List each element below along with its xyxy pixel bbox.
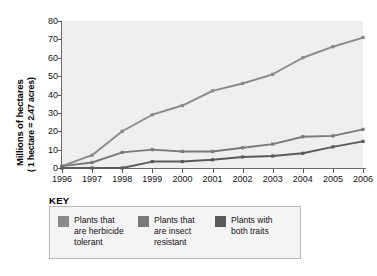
y-axis-tick-mark [58,131,62,132]
legend-item-label: Plants with both traits [231,215,273,237]
x-axis-tick-mark [243,169,244,173]
plot-background [62,21,363,169]
x-axis-tick-label: 1996 [52,174,72,184]
y-axis-tick-label: 60 [48,53,58,63]
legend-item-insect-resistant[interactable]: Plants that are insect resistant [138,215,206,248]
legend-swatch-icon [138,216,149,227]
x-axis-tick-mark [152,169,153,173]
x-axis-tick-mark [122,169,123,173]
y-axis-ticks: 01020304050607080 [36,15,62,177]
line-chart-figure: Millions of hectares ( 1 hectare = 2.47 … [0,0,377,276]
x-axis-tick-label: 2005 [323,174,343,184]
x-axis-tick-label: 2003 [263,174,283,184]
y-axis-tick-mark [58,39,62,40]
x-axis-tick-label: 2004 [293,174,313,184]
x-axis-tick-mark [273,169,274,173]
legend-item-herbicide-tolerant[interactable]: Plants that are herbicide tolerant [58,215,130,248]
y-axis-tick-label: 50 [48,71,58,81]
y-axis-tick-label: 10 [48,145,58,155]
y-axis-tick-mark [58,21,62,22]
legend-swatch-icon [58,216,69,227]
legend-item-label: Plants that are herbicide tolerant [74,215,124,248]
y-axis-tick-mark [58,150,62,151]
x-axis-tick-label: 2006 [353,174,373,184]
x-axis-tick-label: 2002 [233,174,253,184]
y-axis-title-line2: ( 1 hectare = 2.47 acres) [26,77,36,172]
x-axis-tick-mark [363,169,364,173]
legend-item-label: Plants that are insect resistant [154,215,195,248]
y-axis-tick-label: 20 [48,126,58,136]
x-axis-tick-mark [333,169,334,173]
y-axis-tick-label: 70 [48,34,58,44]
x-axis-tick-mark [62,169,63,173]
x-axis-tick-label: 2001 [202,174,222,184]
legend: Plants that are herbicide tolerant Plant… [49,206,301,259]
y-axis-tick-mark [58,113,62,114]
x-axis-tick-mark [182,169,183,173]
y-axis-title: Millions of hectares ( 1 hectare = 2.47 … [0,14,34,174]
y-axis-tick-mark [58,58,62,59]
x-axis-tick-label: 1997 [82,174,102,184]
x-axis-tick-label: 1998 [112,174,132,184]
y-axis-title-line1: Millions of hectares [14,79,25,166]
x-axis-tick-mark [303,169,304,173]
x-axis-tick-mark [92,169,93,173]
legend-item-both-traits[interactable]: Plants with both traits [215,215,293,237]
y-axis-tick-mark [58,76,62,77]
y-axis-tick-label: 40 [48,90,58,100]
legend-swatch-icon [215,216,226,227]
x-axis-ticks: 1996199719981999200020012002200320042005… [0,169,377,189]
y-axis-tick-label: 80 [48,16,58,26]
y-axis-tick-label: 30 [48,108,58,118]
key-heading: KEY [49,195,69,206]
x-axis-tick-label: 1999 [142,174,162,184]
y-axis-tick-mark [58,95,62,96]
x-axis-tick-mark [213,169,214,173]
x-axis-tick-label: 2000 [172,174,192,184]
